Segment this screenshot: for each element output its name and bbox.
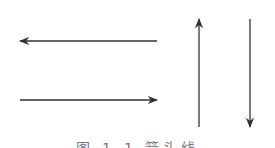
arrow-diagram [0, 0, 275, 148]
figure-caption: 图 1-1 箭头线 [0, 137, 275, 148]
